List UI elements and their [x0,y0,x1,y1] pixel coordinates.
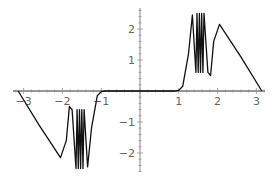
x-tick-label: 1 [175,95,182,108]
axes [13,8,265,172]
x-tick-label: 3 [253,95,260,108]
x-tick-label: 2 [214,95,221,108]
y-tick-label: −2 [119,147,135,160]
y-tick-label: 2 [128,23,135,36]
y-tick-label: 1 [128,54,135,67]
x-tick-label: −3 [15,95,31,108]
y-tick-label: −1 [119,116,135,129]
x-tick-label: −2 [54,95,70,108]
function-plot: −3−2−112321−1−2 [0,0,276,182]
